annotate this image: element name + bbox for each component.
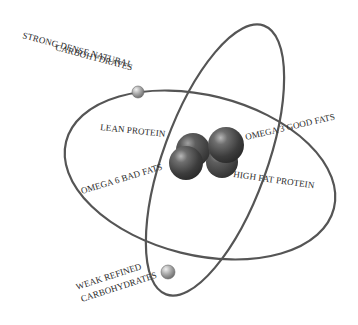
omega3-label: OMEGA 3 GOOD FATS — [244, 112, 336, 142]
weak-carbs-electron-icon — [161, 265, 175, 279]
atom-nutrition-diagram: STRONG DENSE NATURAL CARBOHYDRATES LEAN … — [0, 0, 358, 325]
horizontal-orbit — [47, 64, 354, 286]
nucleus-particle-left-front — [169, 146, 203, 180]
high-fat-protein-label: HIGH FAT PROTEIN — [233, 169, 316, 190]
strong-carbs-electron-icon — [132, 86, 144, 98]
lean-protein-label: LEAN PROTEIN — [100, 122, 167, 139]
nucleus-particle-right — [208, 127, 244, 163]
